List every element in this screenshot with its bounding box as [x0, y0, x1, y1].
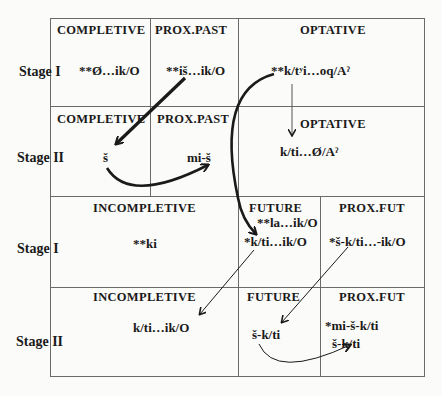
arrow-optative-to-future [232, 74, 274, 234]
derivation-arrows [0, 0, 442, 396]
arrow-future-to-proxfut [259, 344, 350, 362]
arrow-proxfut-to-future [282, 247, 348, 322]
arrow-proxpast-to-completive [116, 78, 185, 144]
arrow-future-to-incompletive [200, 250, 254, 314]
arrow-completive-to-proxpast [107, 165, 208, 186]
